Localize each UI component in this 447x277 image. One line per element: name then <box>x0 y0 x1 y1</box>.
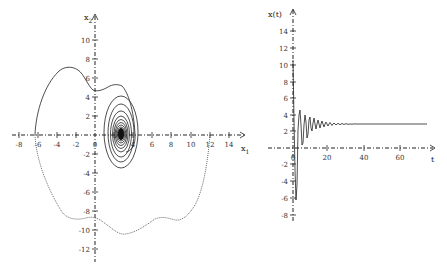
svg-text:-12: -12 <box>79 246 90 254</box>
xt-tick-labels: 14 12 10 8 6 4 2 -2 -4 -6 -8 <box>279 28 288 220</box>
svg-text:2: 2 <box>86 113 90 121</box>
svg-text:12: 12 <box>206 141 215 149</box>
xt-axis-label: x(t) <box>268 10 282 19</box>
svg-text:0: 0 <box>93 141 97 149</box>
svg-text:6: 6 <box>150 141 155 149</box>
phase-portrait-chart: x1 x2 -8 -6 -4 -2 0 4 6 8 10 12 14 <box>12 13 249 262</box>
svg-text:-4: -4 <box>281 178 288 186</box>
svg-text:-2: -2 <box>83 151 90 159</box>
svg-text:14: 14 <box>279 28 288 36</box>
svg-text:-4: -4 <box>54 141 61 149</box>
svg-text:-6: -6 <box>281 195 288 203</box>
svg-text:-10: -10 <box>79 227 90 235</box>
svg-text:4: 4 <box>284 112 289 120</box>
svg-text:-6: -6 <box>83 189 90 197</box>
svg-text:20: 20 <box>323 154 332 162</box>
t-tick-labels: 0 20 40 60 <box>291 154 405 162</box>
svg-text:14: 14 <box>225 141 234 149</box>
svg-text:12: 12 <box>279 45 288 53</box>
svg-text:6: 6 <box>86 75 91 83</box>
x2-tick-labels: 10 8 6 4 2 -2 -4 -6 -8 -10 -12 <box>79 37 91 254</box>
time-response-chart: t x(t) 0 20 40 60 14 12 10 8 6 <box>268 9 435 222</box>
svg-text:6: 6 <box>284 95 289 103</box>
svg-text:8: 8 <box>169 141 173 149</box>
t-axis-label: t <box>431 155 435 164</box>
svg-text:10: 10 <box>81 37 90 45</box>
svg-text:-8: -8 <box>16 141 23 149</box>
x1-axis-label: x1 <box>241 144 249 155</box>
svg-text:10: 10 <box>187 141 196 149</box>
xt-curve <box>293 60 427 200</box>
svg-text:40: 40 <box>360 154 369 162</box>
svg-text:-2: -2 <box>73 141 80 149</box>
svg-text:-8: -8 <box>281 212 288 220</box>
svg-text:-4: -4 <box>83 170 90 178</box>
svg-text:8: 8 <box>284 79 288 87</box>
equilibrium-point <box>118 128 124 140</box>
x2-axis-label: x2 <box>84 13 93 24</box>
outer-trajectory-dotted <box>35 135 210 234</box>
svg-text:10: 10 <box>279 62 288 70</box>
figure: x1 x2 -8 -6 -4 -2 0 4 6 8 10 12 14 <box>0 0 447 277</box>
svg-text:2: 2 <box>284 128 288 136</box>
svg-text:-8: -8 <box>83 208 90 216</box>
svg-text:8: 8 <box>86 56 90 64</box>
svg-text:4: 4 <box>86 94 91 102</box>
svg-text:-2: -2 <box>281 161 288 169</box>
svg-text:60: 60 <box>396 154 405 162</box>
